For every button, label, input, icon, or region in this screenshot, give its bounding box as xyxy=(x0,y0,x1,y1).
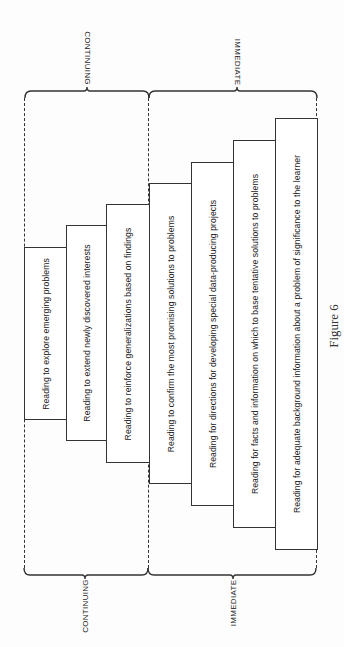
top-label-immediate: IMMEDIATE xyxy=(233,39,242,86)
box-reinforce-generalizations: Reading to reinforce generalizations bas… xyxy=(106,204,150,463)
box-label: Reading to confirm the most promising so… xyxy=(166,215,176,452)
box-extend-interests: Reading to extend newly discovered inter… xyxy=(66,225,107,441)
bottom-brace-immediate xyxy=(148,568,316,579)
box-label: Reading to extend newly discovered inter… xyxy=(82,244,92,421)
bottom-label-immediate: IMMEDIATE xyxy=(229,580,238,627)
top-brace-immediate xyxy=(149,87,317,98)
box-directions-projects: Reading for directions for developing sp… xyxy=(191,162,234,506)
box-label: Reading for facts and information on whi… xyxy=(250,174,260,494)
box-facts-information: Reading for facts and information on whi… xyxy=(233,140,276,528)
box-explore-emerging-problems: Reading to explore emerging problems xyxy=(24,247,67,420)
box-label: Reading to explore emerging problems xyxy=(41,258,51,410)
top-label-continuing: CONTINUING xyxy=(83,31,92,85)
top-brace-continuing xyxy=(25,87,149,98)
box-label: Reading for adequate background informat… xyxy=(292,155,302,513)
box-label: Reading for directions for developing sp… xyxy=(208,200,218,468)
bottom-label-continuing: CONTINUING xyxy=(81,579,90,633)
bottom-brace-continuing xyxy=(24,568,148,579)
figure-6-diagram: Reading to explore emerging problems Rea… xyxy=(0,0,344,647)
figure-caption: Figure 6 xyxy=(326,304,342,348)
box-background-information: Reading for adequate background informat… xyxy=(275,118,318,550)
box-confirm-solutions: Reading to confirm the most promising so… xyxy=(149,183,192,484)
box-label: Reading to reinforce generalizations bas… xyxy=(123,227,133,440)
